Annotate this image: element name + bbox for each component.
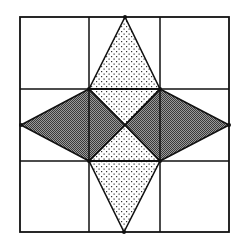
- vertex-right: [227, 123, 231, 127]
- bottom-dotted-triangle: [89, 161, 160, 232]
- vertex-left: [19, 123, 23, 127]
- top-dotted-triangle: [89, 17, 160, 89]
- vertex-bottom: [122, 230, 126, 234]
- vertex-tr: [158, 87, 162, 91]
- diagram-canvas: [0, 0, 241, 245]
- vertex-top: [123, 15, 127, 19]
- star-grid-diagram: [0, 0, 241, 245]
- vertex-br: [158, 159, 162, 163]
- vertex-tl: [87, 87, 91, 91]
- vertex-bl: [87, 159, 91, 163]
